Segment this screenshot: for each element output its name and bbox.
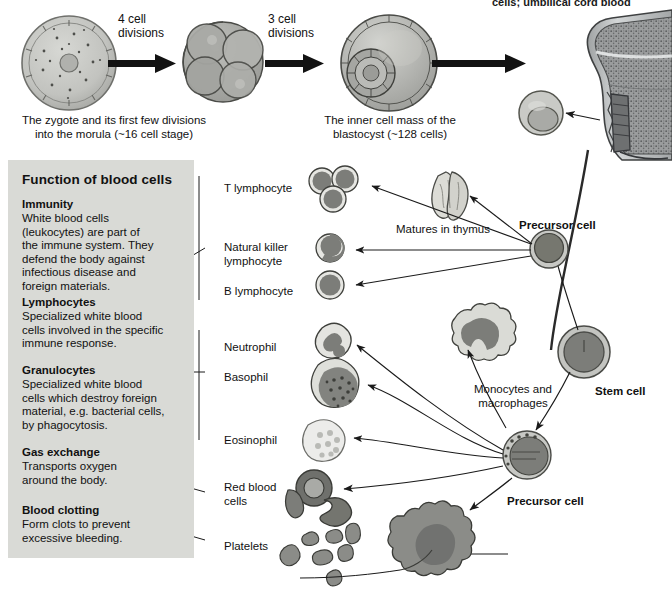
precursor-cell-upper-illustration bbox=[530, 230, 568, 268]
arrow-bone-to-stemcell bbox=[566, 113, 600, 120]
section-heading-blood-clotting: Blood clotting bbox=[22, 504, 99, 516]
stem-cell-top-illustration bbox=[519, 91, 563, 135]
precursor-cell-lower-illustration bbox=[503, 431, 551, 479]
neutrophil-illustration bbox=[315, 323, 351, 358]
label-basophil: Basophil bbox=[224, 371, 268, 385]
arrow-precursor-to-red-blood-cells bbox=[344, 466, 503, 489]
blastocyst-illustration bbox=[341, 15, 437, 111]
label-red-blood-cells: Red blood cells bbox=[224, 481, 276, 508]
vessel-curve bbox=[551, 150, 588, 350]
label-eosinophil: Eosinophil bbox=[224, 434, 277, 448]
label-neutrophil: Neutrophil bbox=[224, 341, 276, 355]
label-t-lymphocyte: T lymphocyte bbox=[224, 182, 292, 196]
label-stem-cell: Stem cell bbox=[595, 385, 646, 399]
arrow-4-cell-divisions bbox=[108, 54, 176, 73]
caption-zygote-morula: The zygote and its first few divisions i… bbox=[14, 114, 214, 141]
section-heading-granulocytes: Granulocytes bbox=[22, 364, 96, 376]
section-heading-immunity: Immunity bbox=[22, 198, 73, 210]
arrow-stem-to-upper-precursor bbox=[556, 258, 578, 330]
section-body-immunity: White blood cells (leukocytes) are part … bbox=[22, 212, 190, 294]
caption-blastocyst: The inner cell mass of the blastocyst (~… bbox=[290, 114, 490, 141]
section-body-gas-exchange: Transports oxygen around the body. bbox=[22, 460, 190, 487]
section-body-blood-clotting: Form clots to prevent excessive bleeding… bbox=[22, 518, 190, 545]
bone-illustration bbox=[587, 10, 672, 165]
platelets-illustration bbox=[280, 523, 361, 586]
eosinophil-illustration bbox=[303, 420, 345, 462]
arrow-precursor-to-b-lymphocyte bbox=[356, 256, 531, 285]
label-natural-killer-lymphocyte: Natural killer lymphocyte bbox=[224, 241, 288, 268]
step-label-3-cell-divisions: 3 cell divisions bbox=[268, 12, 314, 40]
section-body-granulocytes: Specialized white blood cells which dest… bbox=[22, 378, 190, 432]
label-precursor-cell-lower: Precursor cell bbox=[507, 495, 584, 509]
natural-killer-lymphocyte-illustration bbox=[316, 234, 345, 262]
zygote-illustration bbox=[22, 16, 116, 110]
arrow-3-cell-divisions bbox=[265, 54, 324, 73]
t-lymphocyte-illustration bbox=[309, 166, 358, 212]
label-platelets: Platelets bbox=[224, 540, 268, 554]
panel-title: Function of blood cells bbox=[22, 172, 172, 187]
b-lymphocyte-illustration bbox=[316, 271, 344, 299]
monocyte-illustration bbox=[452, 303, 516, 360]
section-heading-gas-exchange: Gas exchange bbox=[22, 446, 100, 458]
leader-macrophage-tail bbox=[300, 570, 400, 578]
stem-cell-illustration bbox=[558, 326, 610, 378]
label-precursor-cell-upper: Precursor cell bbox=[519, 219, 596, 233]
section-heading-lymphocytes: Lymphocytes bbox=[22, 296, 96, 308]
arrow-precursor-to-eosinophil bbox=[354, 438, 503, 458]
label-monocytes-and-macrophages: Monocytes and macrophages bbox=[474, 383, 552, 410]
basophil-illustration bbox=[311, 358, 359, 407]
label-b-lymphocyte: B lymphocyte bbox=[224, 285, 293, 299]
arrow-precursor-to-macrophage bbox=[470, 478, 512, 510]
step-label-4-cell-divisions: 4 cell divisions bbox=[118, 12, 164, 40]
label-matures-in-thymus: Matures in thymus bbox=[396, 223, 490, 237]
diagram-canvas: cells; umbilical cord blood bbox=[0, 0, 672, 604]
function-of-blood-cells-panel: Function of blood cells Immunity White b… bbox=[8, 160, 194, 558]
red-blood-cells-illustration bbox=[286, 470, 352, 526]
morula-illustration bbox=[183, 22, 263, 102]
section-body-lymphocytes: Specialized white blood cells involved i… bbox=[22, 310, 190, 351]
thymus-illustration bbox=[432, 172, 468, 220]
macrophage-illustration bbox=[388, 501, 475, 576]
arrow-to-stem-cell bbox=[432, 54, 526, 73]
top-cutoff-text: cells; umbilical cord blood bbox=[492, 0, 631, 8]
